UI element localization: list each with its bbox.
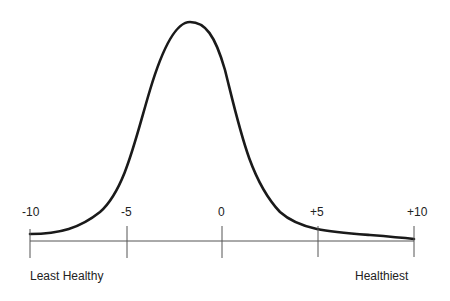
tick-label-minus10: -10 <box>22 205 40 219</box>
tick-label-plus5: +5 <box>310 205 324 219</box>
tick-label-plus10: +10 <box>407 205 428 219</box>
label-least-healthy: Least Healthy <box>30 269 103 283</box>
label-healthiest: Healthiest <box>355 269 409 283</box>
tick-label-minus5: -5 <box>121 205 132 219</box>
tick-label-0: 0 <box>218 205 225 219</box>
distribution-chart: -10 -5 0 +5 +10 Least Healthy Healthiest <box>0 0 450 301</box>
